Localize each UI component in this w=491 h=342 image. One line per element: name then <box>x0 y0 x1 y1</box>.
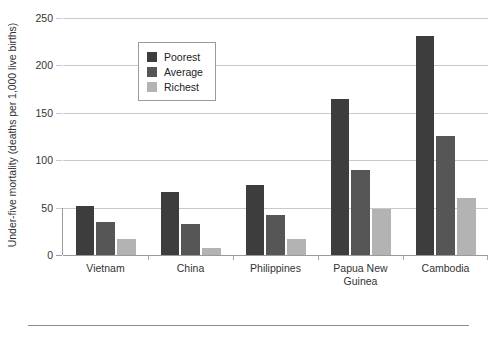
x-axis-label-line: Papua New <box>318 262 403 275</box>
x-axis-label-line: China <box>148 262 233 275</box>
bar-group <box>331 18 391 255</box>
bar <box>372 209 391 255</box>
axis-group-separator <box>403 255 404 260</box>
y-axis-tick-label: 250 <box>13 12 53 24</box>
bar <box>351 170 370 255</box>
x-axis-label: Vietnam <box>63 262 148 275</box>
gridline <box>63 255 488 256</box>
y-axis-tick <box>56 113 62 114</box>
plot-area: 050100150200250 <box>63 18 488 255</box>
bar <box>181 224 200 255</box>
y-axis-spine <box>62 208 63 255</box>
legend-item: Average <box>147 64 203 79</box>
y-axis-tick <box>56 255 62 256</box>
bar <box>416 36 435 255</box>
axis-group-separator <box>233 255 234 260</box>
y-axis-tick-label: 200 <box>13 59 53 71</box>
footer-rule <box>28 325 469 326</box>
y-axis-tick <box>56 65 62 66</box>
x-axis-label: Philippines <box>233 262 318 275</box>
bar <box>266 215 285 255</box>
bar <box>457 198 476 255</box>
bar <box>117 239 136 255</box>
x-axis-label-line: Guinea <box>318 275 403 288</box>
chart-legend: Poorest Average Richest <box>138 42 216 101</box>
bar <box>331 99 350 255</box>
y-axis-tick-label: 0 <box>13 249 53 261</box>
x-axis-label: China <box>148 262 233 275</box>
legend-label-average: Average <box>164 66 203 78</box>
y-axis-title: Under-five mortality (deaths per 1,000 l… <box>0 0 24 270</box>
legend-label-poorest: Poorest <box>164 51 200 63</box>
axis-group-separator <box>148 255 149 260</box>
y-axis-tick <box>56 18 62 19</box>
bar <box>287 239 306 255</box>
bar <box>96 222 115 255</box>
bar <box>202 248 221 255</box>
bar-group <box>246 18 306 255</box>
y-axis-tick-label: 100 <box>13 154 53 166</box>
bar <box>76 206 95 255</box>
x-axis-label: Cambodia <box>403 262 488 275</box>
x-axis-label-line: Philippines <box>233 262 318 275</box>
y-axis-tick <box>56 208 62 209</box>
bar <box>436 136 455 255</box>
y-axis-tick-label: 50 <box>13 202 53 214</box>
legend-label-richest: Richest <box>164 81 199 93</box>
legend-item: Poorest <box>147 49 203 64</box>
x-axis-label-line: Vietnam <box>63 262 148 275</box>
legend-item: Richest <box>147 79 203 94</box>
x-axis-label-line: Cambodia <box>403 262 488 275</box>
legend-swatch-richest <box>147 82 157 92</box>
legend-swatch-poorest <box>147 52 157 62</box>
bar-group <box>76 18 136 255</box>
axis-group-separator <box>318 255 319 260</box>
bar-group <box>416 18 476 255</box>
x-axis-label: Papua NewGuinea <box>318 262 403 287</box>
y-axis-tick <box>56 160 62 161</box>
chart-figure: Under-five mortality (deaths per 1,000 l… <box>0 0 491 342</box>
axis-group-separator <box>487 255 488 260</box>
bar <box>161 192 180 255</box>
legend-swatch-average <box>147 67 157 77</box>
bar <box>246 185 265 255</box>
y-axis-tick-label: 150 <box>13 107 53 119</box>
